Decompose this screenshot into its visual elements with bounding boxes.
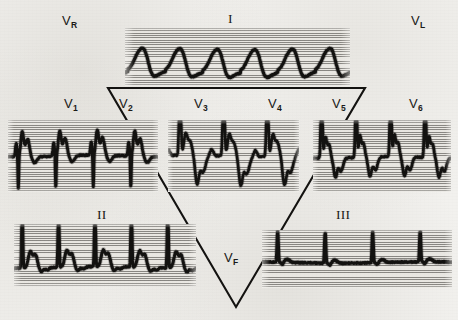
ecg-strip-lead-iii [262, 230, 452, 288]
label-vf: VF [224, 251, 238, 264]
ecg-trace-lead-iii [262, 230, 452, 288]
ecg-strip-v1-v2 [8, 120, 158, 192]
label-v5: V5 [332, 97, 346, 110]
label-v2: V2 [119, 97, 133, 110]
label-lead-ii: II [97, 208, 107, 222]
ecg-trace-v3-v4 [168, 120, 299, 192]
ecg-strip-lead-ii [14, 224, 196, 286]
label-v4: V4 [268, 97, 282, 110]
label-vl: VL [411, 14, 425, 27]
ecg-figure: VR I VL V1 V2 V3 V4 V5 V6 II III VF [0, 0, 458, 320]
label-vr: VR [62, 14, 77, 27]
label-lead-iii: III [336, 208, 350, 222]
label-v3: V3 [194, 97, 208, 110]
ecg-strip-v3-v4 [168, 120, 299, 192]
ecg-trace-v1-v2 [8, 120, 158, 192]
label-v6: V6 [409, 97, 423, 110]
ecg-trace-lead-i [125, 28, 350, 86]
label-lead-i: I [228, 12, 233, 26]
ecg-strip-lead-i [125, 28, 350, 86]
ecg-strip-v5-v6 [313, 120, 451, 192]
ecg-trace-v5-v6 [313, 120, 451, 192]
ecg-trace-lead-ii [14, 224, 196, 286]
label-v1: V1 [64, 97, 78, 110]
